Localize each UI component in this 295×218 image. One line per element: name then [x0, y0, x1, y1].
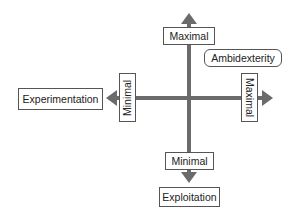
ambidexterity-label: Ambidexterity — [204, 49, 282, 67]
arrow-down-icon — [181, 172, 197, 183]
horizontal-axis-minimal-label: Minimal — [119, 73, 136, 122]
horizontal-axis-maximal-label: Maximal — [241, 73, 258, 122]
arrow-right-icon — [262, 90, 273, 106]
arrow-up-icon — [181, 13, 197, 24]
vertical-axis-maximal-label: Maximal — [163, 27, 215, 45]
experimentation-label: Experimentation — [18, 88, 103, 110]
vertical-axis-minimal-label: Minimal — [165, 152, 214, 170]
exploitation-label: Exploitation — [159, 187, 220, 207]
arrow-left-icon — [106, 90, 117, 106]
